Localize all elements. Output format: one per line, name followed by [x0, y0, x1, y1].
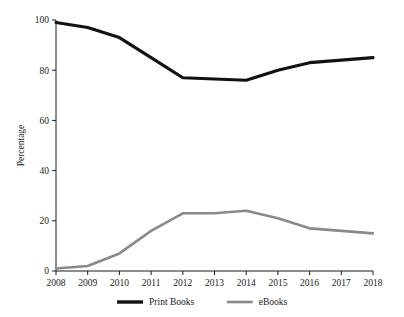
x-tick-label: 2016 — [300, 278, 319, 288]
y-tick-label: 40 — [40, 166, 50, 176]
x-tick-label: 2010 — [110, 278, 129, 288]
y-tick-label: 100 — [35, 15, 50, 25]
chart-container: 020406080100 200820092010201120122013201… — [0, 0, 404, 317]
x-tick-label: 2009 — [78, 278, 97, 288]
legend-label-ebooks: eBooks — [259, 297, 288, 307]
y-tick-label: 60 — [40, 116, 50, 126]
x-tick-label: 2013 — [205, 278, 224, 288]
x-tick-label: 2017 — [332, 278, 351, 288]
legend-label-print-books: Print Books — [149, 297, 194, 307]
line-chart: 020406080100 200820092010201120122013201… — [0, 0, 404, 317]
x-tick-label: 2011 — [142, 278, 161, 288]
x-tick-label: 2018 — [364, 278, 383, 288]
x-tick-label: 2012 — [173, 278, 192, 288]
x-tick-label: 2014 — [237, 278, 256, 288]
y-tick-label: 80 — [40, 66, 50, 76]
y-axis-title: Percentage — [16, 125, 26, 167]
y-tick-label: 0 — [44, 266, 49, 276]
chart-background — [0, 0, 404, 317]
x-tick-label: 2015 — [268, 278, 287, 288]
y-tick-label: 20 — [40, 216, 50, 226]
x-tick-label: 2008 — [47, 278, 66, 288]
y-axis-title-text: Percentage — [16, 125, 26, 167]
